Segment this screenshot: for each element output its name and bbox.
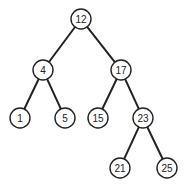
edge-4-5 <box>47 79 61 109</box>
tree-node-1: 1 <box>10 108 30 128</box>
node-label: 25 <box>161 163 173 174</box>
node-label: 4 <box>40 65 46 76</box>
edge-12-17 <box>87 27 115 62</box>
tree-edges <box>24 27 162 159</box>
tree-node-4: 4 <box>33 60 53 80</box>
edge-23-21 <box>124 127 139 159</box>
edge-17-15 <box>102 79 116 109</box>
edge-12-4 <box>49 27 75 62</box>
tree-node-25: 25 <box>157 158 177 178</box>
node-label: 5 <box>62 113 68 124</box>
binary-tree-diagram: 124171515232125 <box>0 0 187 189</box>
edge-17-23 <box>125 79 139 109</box>
tree-node-21: 21 <box>110 158 130 178</box>
node-label: 15 <box>92 113 104 124</box>
node-label: 1 <box>17 113 23 124</box>
node-label: 17 <box>115 65 127 76</box>
node-label: 12 <box>75 14 87 25</box>
edge-4-1 <box>24 79 38 109</box>
tree-node-23: 23 <box>133 108 153 128</box>
node-label: 23 <box>137 113 149 124</box>
tree-node-17: 17 <box>111 60 131 80</box>
node-label: 21 <box>114 163 126 174</box>
tree-node-12: 12 <box>71 9 91 29</box>
tree-node-5: 5 <box>55 108 75 128</box>
edge-23-25 <box>147 127 162 159</box>
tree-node-15: 15 <box>88 108 108 128</box>
